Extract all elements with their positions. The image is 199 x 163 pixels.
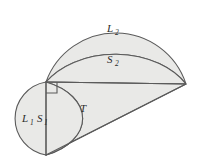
- label-triangle: T: [80, 102, 87, 114]
- label-lune-large: L: [106, 22, 113, 34]
- label-lune-small: L: [21, 112, 28, 124]
- label-segment-small: S: [37, 112, 43, 124]
- label-segment-large-sub: 2: [115, 59, 119, 68]
- geometry-canvas: L 1 S 1 L 2 S 2 T: [0, 0, 199, 163]
- label-segment-large: S: [107, 53, 113, 65]
- geometry-diagram: L 1 S 1 L 2 S 2 T: [0, 0, 199, 163]
- label-lune-small-sub: 1: [30, 118, 34, 127]
- label-segment-small-sub: 1: [44, 118, 48, 127]
- label-lune-large-sub: 2: [115, 28, 119, 37]
